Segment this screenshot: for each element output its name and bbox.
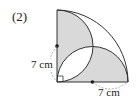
problem-number: (2) [12, 10, 27, 23]
left-length-label: 7 cm [30, 59, 54, 70]
bottom-length-label: 7 cm [98, 87, 120, 98]
